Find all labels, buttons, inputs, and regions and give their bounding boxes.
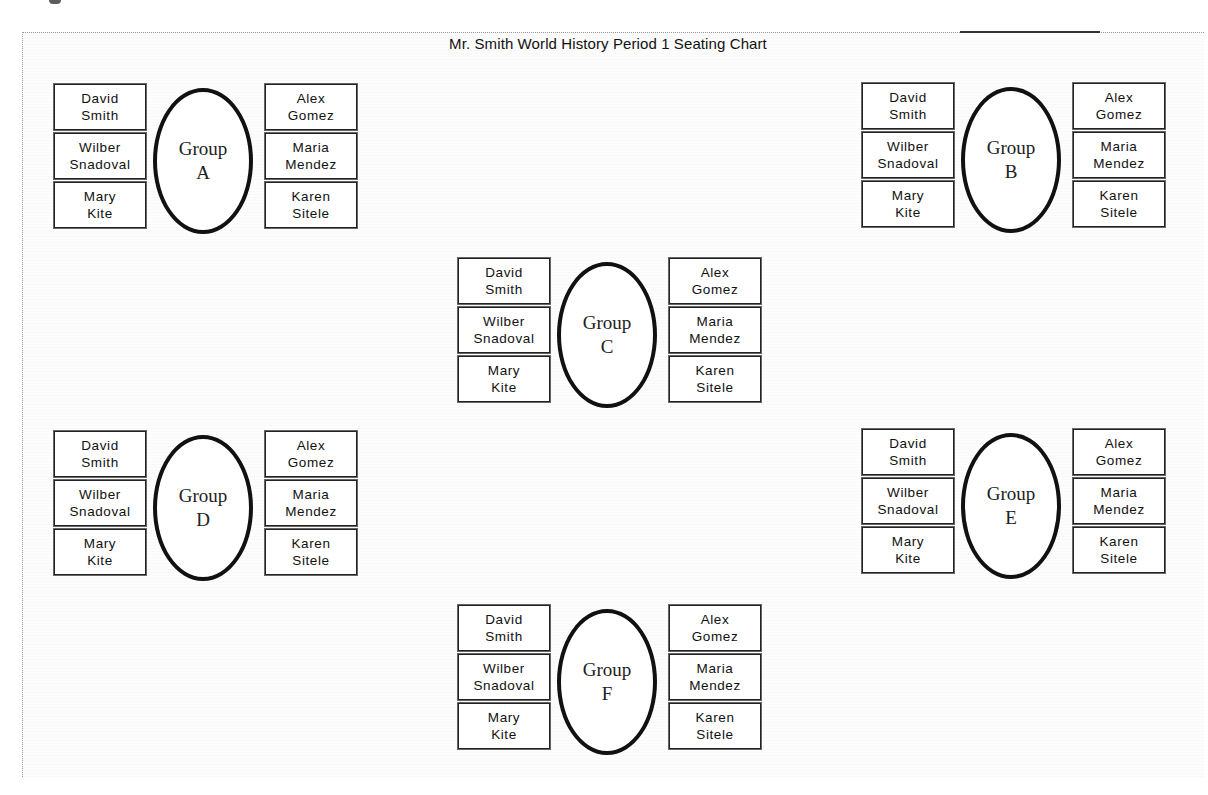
group-d: DavidSmith WilberSnadoval MaryKite Group… xyxy=(54,431,366,581)
seat-a-right-3[interactable]: KarenSitele xyxy=(265,182,357,228)
seat-a-left-3[interactable]: MaryKite xyxy=(54,182,146,228)
seat-a-right-1[interactable]: AlexGomez xyxy=(265,84,357,130)
seat-first-name: Maria xyxy=(293,139,330,156)
seat-first-name: Wilber xyxy=(483,660,525,677)
seat-first-name: Mary xyxy=(892,187,924,204)
seat-e-right-2[interactable]: MariaMendez xyxy=(1073,478,1165,524)
seat-first-name: Maria xyxy=(1101,484,1138,501)
seat-last-name: Sitele xyxy=(696,726,733,743)
seat-first-name: Wilber xyxy=(887,138,929,155)
seat-d-right-2[interactable]: MariaMendez xyxy=(265,480,357,526)
top-rule-divider xyxy=(960,31,1100,33)
seat-first-name: Mary xyxy=(84,535,116,552)
seat-f-right-1[interactable]: AlexGomez xyxy=(669,605,761,651)
seat-first-name: Wilber xyxy=(887,484,929,501)
seat-a-left-2[interactable]: WilberSnadoval xyxy=(54,133,146,179)
seat-first-name: David xyxy=(889,89,927,106)
seat-last-name: Kite xyxy=(895,204,921,221)
seat-first-name: Mary xyxy=(84,188,116,205)
group-c: DavidSmith WilberSnadoval MaryKite Group… xyxy=(458,258,770,408)
seat-last-name: Kite xyxy=(895,550,921,567)
seat-first-name: Karen xyxy=(695,362,734,379)
seat-d-right-3[interactable]: KarenSitele xyxy=(265,529,357,575)
seat-b-right-2[interactable]: MariaMendez xyxy=(1073,132,1165,178)
seat-c-right-1[interactable]: AlexGomez xyxy=(669,258,761,304)
seat-last-name: Mendez xyxy=(1093,155,1145,172)
seat-first-name: David xyxy=(81,90,119,107)
seat-d-right-1[interactable]: AlexGomez xyxy=(265,431,357,477)
seat-last-name: Smith xyxy=(889,452,927,469)
seat-last-name: Smith xyxy=(485,281,523,298)
seat-last-name: Snadoval xyxy=(877,155,938,172)
group-table-b[interactable]: GroupB xyxy=(961,87,1061,233)
seat-last-name: Gomez xyxy=(288,454,335,471)
group-table-e[interactable]: GroupE xyxy=(961,433,1061,579)
seat-first-name: David xyxy=(81,437,119,454)
seat-f-right-3[interactable]: KarenSitele xyxy=(669,703,761,749)
seat-last-name: Snadoval xyxy=(473,330,534,347)
seat-first-name: Alex xyxy=(1105,89,1134,106)
seat-a-right-2[interactable]: MariaMendez xyxy=(265,133,357,179)
chart-title-bar: Mr. Smith World History Period 1 Seating… xyxy=(0,35,1208,52)
seat-first-name: David xyxy=(889,435,927,452)
group-label: Group xyxy=(987,482,1036,506)
seat-last-name: Snadoval xyxy=(69,503,130,520)
seat-first-name: Karen xyxy=(1099,533,1138,550)
seat-f-left-3[interactable]: MaryKite xyxy=(458,703,550,749)
seat-f-right-2[interactable]: MariaMendez xyxy=(669,654,761,700)
seat-first-name: Karen xyxy=(291,188,330,205)
seat-c-right-2[interactable]: MariaMendez xyxy=(669,307,761,353)
group-table-c[interactable]: GroupC xyxy=(557,262,657,408)
seat-d-left-2[interactable]: WilberSnadoval xyxy=(54,480,146,526)
seat-b-left-2[interactable]: WilberSnadoval xyxy=(862,132,954,178)
seat-c-right-3[interactable]: KarenSitele xyxy=(669,356,761,402)
seat-last-name: Gomez xyxy=(288,107,335,124)
group-b: DavidSmith WilberSnadoval MaryKite Group… xyxy=(862,83,1174,233)
seat-d-left-1[interactable]: DavidSmith xyxy=(54,431,146,477)
seat-first-name: Alex xyxy=(701,264,730,281)
seat-c-left-1[interactable]: DavidSmith xyxy=(458,258,550,304)
seat-last-name: Smith xyxy=(889,106,927,123)
group-letter: A xyxy=(196,161,210,185)
seat-e-right-3[interactable]: KarenSitele xyxy=(1073,527,1165,573)
group-letter: C xyxy=(601,335,614,359)
seat-c-left-2[interactable]: WilberSnadoval xyxy=(458,307,550,353)
seat-last-name: Snadoval xyxy=(473,677,534,694)
seat-first-name: David xyxy=(485,611,523,628)
group-table-d[interactable]: GroupD xyxy=(153,435,253,581)
seat-e-left-2[interactable]: WilberSnadoval xyxy=(862,478,954,524)
group-f: DavidSmith WilberSnadoval MaryKite Group… xyxy=(458,605,770,755)
seat-b-left-1[interactable]: DavidSmith xyxy=(862,83,954,129)
seat-last-name: Sitele xyxy=(292,205,329,222)
seat-first-name: Karen xyxy=(695,709,734,726)
seat-first-name: Mary xyxy=(488,362,520,379)
seat-last-name: Kite xyxy=(87,205,113,222)
seat-last-name: Smith xyxy=(485,628,523,645)
page-title: Mr. Smith World History Period 1 Seating… xyxy=(449,35,767,52)
seat-last-name: Snadoval xyxy=(877,501,938,518)
seat-e-left-3[interactable]: MaryKite xyxy=(862,527,954,573)
seat-e-right-1[interactable]: AlexGomez xyxy=(1073,429,1165,475)
seat-b-right-3[interactable]: KarenSitele xyxy=(1073,181,1165,227)
seat-b-right-1[interactable]: AlexGomez xyxy=(1073,83,1165,129)
seat-a-left-1[interactable]: DavidSmith xyxy=(54,84,146,130)
seat-first-name: Wilber xyxy=(79,139,121,156)
group-table-f[interactable]: GroupF xyxy=(557,609,657,755)
seat-first-name: Mary xyxy=(892,533,924,550)
seat-f-left-1[interactable]: DavidSmith xyxy=(458,605,550,651)
seat-e-left-1[interactable]: DavidSmith xyxy=(862,429,954,475)
seat-b-left-3[interactable]: MaryKite xyxy=(862,181,954,227)
seat-d-left-3[interactable]: MaryKite xyxy=(54,529,146,575)
group-label: Group xyxy=(583,311,632,335)
group-label: Group xyxy=(179,137,228,161)
group-letter: B xyxy=(1005,160,1018,184)
seat-last-name: Mendez xyxy=(689,677,741,694)
group-letter: E xyxy=(1005,506,1017,530)
seat-last-name: Sitele xyxy=(1100,550,1137,567)
seat-f-left-2[interactable]: WilberSnadoval xyxy=(458,654,550,700)
seat-first-name: Alex xyxy=(297,90,326,107)
group-table-a[interactable]: GroupA xyxy=(153,88,253,234)
seat-c-left-3[interactable]: MaryKite xyxy=(458,356,550,402)
seat-first-name: Wilber xyxy=(483,313,525,330)
seat-last-name: Mendez xyxy=(285,503,337,520)
